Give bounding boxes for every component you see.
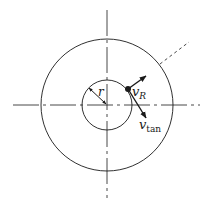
- velocity-diagram: r vR vtan: [0, 0, 211, 207]
- radius-label: r: [98, 85, 105, 99]
- radial-velocity-label: vR: [132, 84, 146, 101]
- dashed-leader-line: [160, 42, 189, 64]
- tangential-velocity-label: vtan: [139, 117, 161, 134]
- particle-dot: [125, 86, 131, 92]
